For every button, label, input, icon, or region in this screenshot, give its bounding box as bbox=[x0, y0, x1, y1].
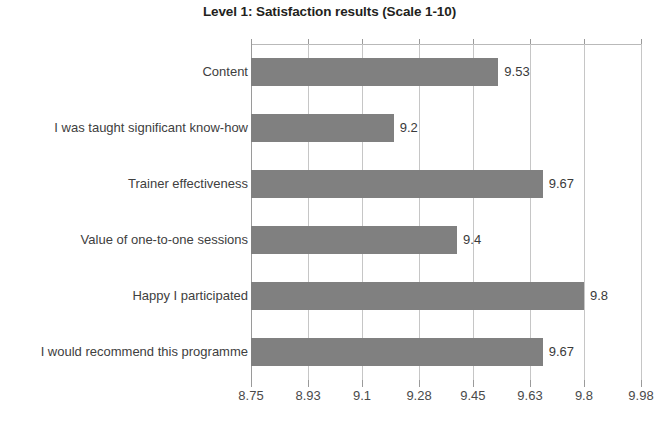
x-tick-label: 8.93 bbox=[295, 388, 320, 403]
bar bbox=[251, 170, 543, 198]
bar-value-label: 9.67 bbox=[543, 338, 574, 366]
plot-area: 9.539.29.679.49.89.67 bbox=[251, 44, 641, 380]
axis-tick bbox=[473, 380, 474, 387]
bar-value-label: 9.4 bbox=[457, 226, 481, 254]
bar-row: 9.2 bbox=[251, 100, 641, 156]
chart-title: Level 1: Satisfaction results (Scale 1-1… bbox=[0, 4, 659, 19]
x-tick-label: 9.45 bbox=[460, 388, 485, 403]
axis-tick bbox=[308, 380, 309, 387]
axis-tick bbox=[584, 380, 585, 387]
bar-row: 9.8 bbox=[251, 268, 641, 324]
axis-tick bbox=[641, 380, 642, 387]
bar bbox=[251, 114, 394, 142]
bar-value-label: 9.8 bbox=[584, 282, 608, 310]
axis-tick bbox=[419, 380, 420, 387]
x-tick-label: 8.75 bbox=[238, 388, 263, 403]
category-label: Trainer effectiveness bbox=[0, 170, 248, 198]
value-axis-labels: 8.758.939.19.289.459.639.89.98 bbox=[251, 388, 641, 412]
x-tick-label: 9.8 bbox=[575, 388, 593, 403]
bar-chart: Level 1: Satisfaction results (Scale 1-1… bbox=[0, 0, 659, 421]
x-tick-label: 9.1 bbox=[353, 388, 371, 403]
bar-value-label: 9.67 bbox=[543, 170, 574, 198]
category-axis-labels: ContentI was taught significant know-how… bbox=[0, 44, 248, 380]
category-label: Content bbox=[0, 58, 248, 86]
category-label: I would recommend this programme bbox=[0, 338, 248, 366]
axis-tick-top bbox=[641, 39, 642, 44]
axis-tick bbox=[362, 380, 363, 387]
axis-tick bbox=[251, 380, 252, 387]
bar-row: 9.67 bbox=[251, 156, 641, 212]
axis-tick bbox=[530, 380, 531, 387]
bar-row: 9.67 bbox=[251, 324, 641, 380]
bar-value-label: 9.2 bbox=[394, 114, 418, 142]
bar-value-label: 9.53 bbox=[498, 58, 529, 86]
x-tick-label: 9.28 bbox=[406, 388, 431, 403]
category-label: Happy I participated bbox=[0, 282, 248, 310]
bar-row: 9.4 bbox=[251, 212, 641, 268]
category-label: I was taught significant know-how bbox=[0, 114, 248, 142]
bar bbox=[251, 58, 498, 86]
x-tick-label: 9.98 bbox=[628, 388, 653, 403]
x-tick-label: 9.63 bbox=[517, 388, 542, 403]
bar bbox=[251, 226, 457, 254]
bar bbox=[251, 338, 543, 366]
category-label: Value of one-to-one sessions bbox=[0, 226, 248, 254]
gridline bbox=[641, 44, 642, 380]
bar-row: 9.53 bbox=[251, 44, 641, 100]
bar bbox=[251, 282, 584, 310]
